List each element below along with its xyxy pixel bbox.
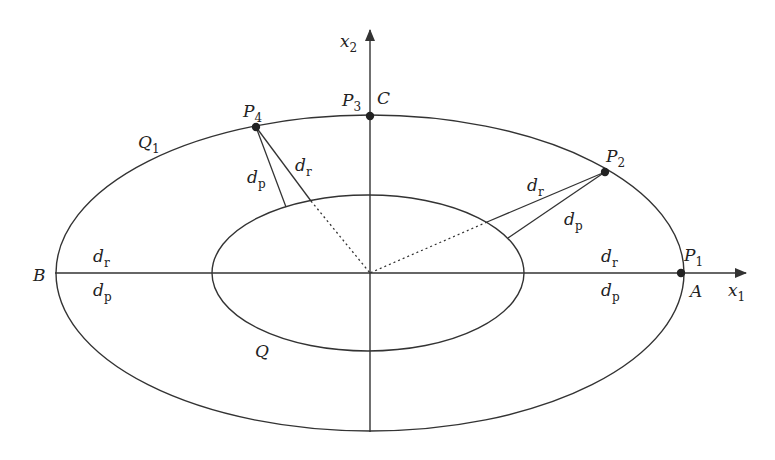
- p2-dr-segment: [487, 172, 605, 222]
- point-p2: [601, 168, 609, 176]
- p4-dr-dotted-extension: [311, 201, 370, 273]
- x2-axis-label: x2: [340, 31, 357, 55]
- label-a-dr: dr: [601, 246, 618, 270]
- label-p4: P4: [242, 101, 262, 125]
- label-q: Q: [255, 341, 269, 361]
- x1-axis-label: x1: [728, 280, 745, 304]
- label-p2-dp: dp: [564, 209, 583, 233]
- p2-dp-segment: [508, 172, 605, 238]
- ellipse-distance-diagram: x2 x1 P4 P3 C P2 P1 A B Q1 Q dp dr dr dp…: [0, 0, 775, 460]
- p2-dr-dotted-extension: [370, 222, 487, 273]
- point-p3: [366, 112, 374, 120]
- label-p4-dp: dp: [247, 167, 266, 191]
- label-p4-dr: dr: [295, 155, 312, 179]
- label-a: A: [688, 281, 702, 301]
- label-b-dp: dp: [93, 280, 112, 304]
- point-p1: [677, 269, 685, 277]
- p4-dp-segment: [256, 127, 286, 207]
- label-a-dp: dp: [601, 280, 620, 304]
- label-b-dr: dr: [93, 246, 110, 270]
- label-p1: P1: [683, 245, 703, 269]
- label-c: C: [377, 88, 390, 108]
- label-p2: P2: [605, 146, 625, 170]
- label-p2-dr: dr: [527, 175, 544, 199]
- label-p3: P3: [341, 90, 361, 114]
- label-q1: Q1: [138, 132, 160, 156]
- label-b: B: [32, 265, 46, 285]
